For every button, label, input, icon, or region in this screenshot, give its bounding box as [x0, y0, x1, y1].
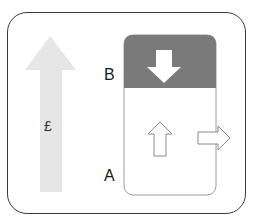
label-a: A — [104, 167, 115, 185]
diagram-art — [0, 0, 255, 224]
big-up-arrow-icon — [25, 36, 76, 192]
label-b: B — [104, 66, 115, 84]
currency-label: £ — [44, 118, 52, 134]
